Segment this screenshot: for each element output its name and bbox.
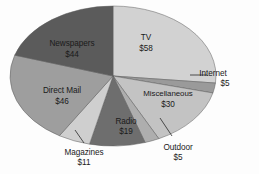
slice-name-radio: Radio <box>115 117 137 126</box>
slice-name-tv: TV <box>141 33 152 42</box>
slice-name-direct-mail: Direct Mail <box>43 86 81 95</box>
slice-value-internet: $5 <box>220 79 230 88</box>
slice-name-miscellaneous: Miscellaneous <box>143 89 192 98</box>
pie-chart-figure: TV$58Internet$5Miscellaneous$30Outdoor$5… <box>0 0 259 174</box>
slice-value-outdoor: $5 <box>173 153 183 162</box>
slice-value-miscellaneous: $30 <box>161 100 175 109</box>
slice-name-internet: Internet <box>199 69 227 78</box>
slice-value-direct-mail: $46 <box>55 97 69 106</box>
slice-value-newspapers: $44 <box>65 50 79 59</box>
slice-value-magazines: $11 <box>78 158 91 167</box>
slice-name-magazines: Magazines <box>64 148 103 157</box>
slice-value-radio: $19 <box>119 127 133 136</box>
pie-slices-group <box>10 6 216 146</box>
pie-chart-svg: TV$58Internet$5Miscellaneous$30Outdoor$5… <box>0 0 259 174</box>
slice-value-tv: $58 <box>139 44 153 53</box>
slice-name-newspapers: Newspapers <box>49 39 94 48</box>
slice-name-outdoor: Outdoor <box>163 143 193 152</box>
